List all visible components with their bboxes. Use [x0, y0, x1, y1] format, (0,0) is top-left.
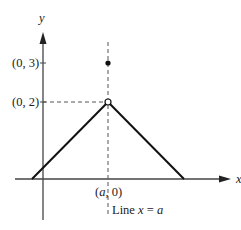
filled-point — [105, 60, 110, 65]
function-graph-right — [110, 104, 184, 179]
label-line-x-equals-a: Line x = a — [112, 203, 163, 217]
diagram-canvas: y x (0, 3) (0, 2) (a, 0) Line x = a — [0, 0, 241, 230]
label-a-0: (a, 0) — [95, 185, 122, 199]
label-0-2: (0, 2) — [12, 95, 39, 109]
y-axis-arrowhead — [40, 32, 47, 44]
y-axis-label: y — [37, 11, 45, 25]
x-axis-arrowhead — [219, 176, 231, 183]
label-0-3: (0, 3) — [12, 56, 39, 70]
x-axis-label: x — [235, 172, 241, 186]
open-point — [105, 99, 111, 105]
